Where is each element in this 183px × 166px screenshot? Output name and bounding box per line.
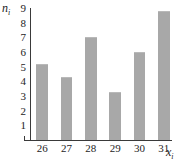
x-axis-line: [24, 140, 172, 141]
x-tick-label: 29: [110, 143, 121, 154]
bar: [85, 37, 96, 140]
x-tick-label: 31: [158, 143, 169, 154]
y-tick-label: 3: [21, 91, 27, 102]
bar: [158, 11, 169, 140]
y-tick-label: 8: [21, 17, 27, 28]
bar-chart: ni xi 123456789 262728293031: [0, 0, 183, 166]
y-tick-label: 4: [21, 76, 27, 87]
x-tick-label: 27: [61, 143, 72, 154]
bar: [61, 77, 72, 140]
x-tick-label: 26: [37, 143, 48, 154]
y-axis-ticks: 123456789: [0, 0, 30, 166]
y-tick-label: 5: [21, 61, 27, 72]
y-tick-label: 9: [21, 3, 27, 14]
bar: [36, 64, 47, 140]
bar: [134, 52, 145, 140]
x-tick-label: 28: [85, 143, 96, 154]
y-tick-label: 7: [21, 32, 27, 43]
x-tick-label: 30: [134, 143, 145, 154]
y-tick-label: 1: [21, 120, 27, 131]
y-tick-label: 2: [21, 105, 27, 116]
bar: [109, 92, 120, 140]
y-tick-label: 6: [21, 47, 27, 58]
bar-series: [30, 8, 176, 140]
x-axis-ticks: 262728293031: [30, 143, 176, 163]
